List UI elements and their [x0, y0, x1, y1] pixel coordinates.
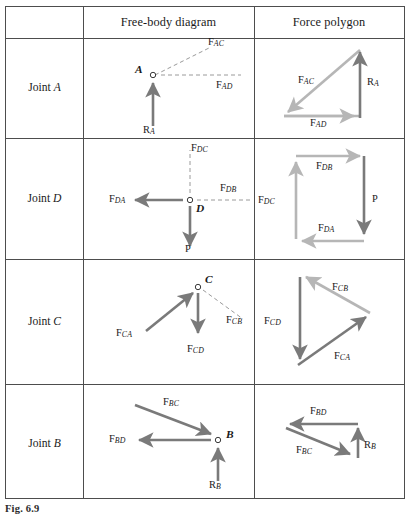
poly-b-label-fbd: FBD [310, 405, 327, 417]
fbd-a-line-fac [155, 47, 211, 75]
joint-id-c: C [53, 315, 61, 328]
figure-caption-label: Fig. [5, 503, 23, 514]
fbd-b-arrow-fbc [135, 405, 211, 434]
poly-d-svg [254, 138, 404, 259]
fbd-b-node-label: B [226, 428, 234, 440]
fbd-d-label-fdb: FDB [220, 182, 237, 194]
figure-caption: Fig. 6.9 [5, 503, 40, 514]
poly-d-label-fdb: FDB [316, 160, 333, 172]
joint-id-a: A [54, 81, 61, 94]
fbd-b-node [215, 437, 220, 442]
joint-analysis-table: Free-body diagram Force polygon Joint A [5, 6, 405, 499]
fbd-a-label-ra: RA [143, 124, 155, 136]
poly-b-svg [254, 384, 404, 499]
joint-prefix-c: Joint [28, 315, 51, 328]
cell-polygon-c: FCD FCA FCB [254, 259, 404, 384]
fbd-c-node-label: C [205, 273, 213, 285]
poly-c-label-fcb: FCB [332, 281, 348, 293]
cell-free-body-b: FBC FBD RB B [83, 384, 254, 499]
fbd-a-label-fad: FAD [216, 79, 233, 91]
poly-d-label-p: P [372, 193, 378, 204]
fbd-b-label-fbc: FBC [163, 396, 179, 408]
fbd-b-label-rb: RB [209, 479, 221, 491]
fbd-a-node-label: A [135, 63, 143, 75]
poly-b-label-fbc: FBC [296, 444, 312, 456]
row-label-joint-c: Joint C [6, 315, 83, 328]
poly-c-label-fcd: FCD [264, 315, 281, 327]
fbd-a-label-fac: FAC [208, 36, 224, 48]
cell-free-body-a: FAC FAD RA A [83, 38, 254, 138]
joint-prefix-d: Joint [28, 192, 51, 205]
fbd-c-label-fcd: FCD [187, 343, 204, 355]
fbd-d-node [187, 197, 192, 202]
fbd-d-label-fda: FDA [109, 193, 126, 205]
poly-c-arrow-fca [298, 317, 366, 365]
fbd-d-label-fdc: FDC [191, 142, 208, 154]
poly-a-label-fad: FAD [310, 117, 327, 129]
header-force-polygon: Force polygon [254, 7, 404, 38]
poly-a-label-fac: FAC [298, 74, 314, 86]
figure-page: Free-body diagram Force polygon Joint A [0, 0, 412, 520]
cell-polygon-d: FDC FDB P FDA [254, 138, 404, 259]
fbd-c-node [195, 284, 200, 289]
fbd-c-label-fca: FCA [116, 327, 132, 339]
cell-polygon-a: FAC FAD RA [254, 38, 404, 138]
fbd-d-label-p: P [185, 243, 191, 254]
figure-caption-number: 6.9 [26, 503, 40, 514]
fbd-b-label-fbd: FBD [109, 433, 126, 445]
cell-free-body-d: FDC FDB FDA P D [83, 138, 254, 259]
cell-polygon-b: FBD FBC RB [254, 384, 404, 499]
fbd-d-node-label: D [196, 202, 204, 214]
header-free-body-diagram: Free-body diagram [83, 7, 254, 38]
fbd-a-node [150, 72, 155, 77]
row-label-joint-d: Joint D [6, 192, 83, 205]
poly-d-label-fda: FDA [318, 222, 335, 234]
poly-a-svg [254, 38, 404, 138]
row-label-joint-a: Joint A [6, 81, 83, 94]
poly-a-label-ra: RA [367, 76, 379, 88]
fbd-c-arrow-fca [146, 293, 193, 331]
cell-free-body-c: FCA FCD FCB C [83, 259, 254, 384]
row-label-joint-b: Joint B [6, 437, 83, 450]
poly-c-label-fca: FCA [334, 350, 350, 362]
poly-d-label-fdc: FDC [258, 194, 275, 206]
poly-b-label-rb: RB [364, 439, 376, 451]
fbd-c-label-fcb: FCB [226, 314, 242, 326]
joint-id-d: D [53, 192, 61, 205]
joint-prefix-a: Joint [28, 81, 51, 94]
joint-id-b: B [54, 437, 61, 450]
joint-prefix-b: Joint [28, 437, 51, 450]
